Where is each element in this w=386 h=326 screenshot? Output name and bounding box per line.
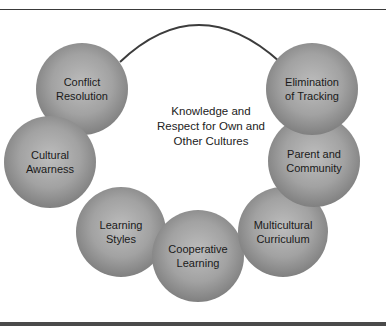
node-label-elimination-of-tracking: Eliminationof Tracking xyxy=(269,75,355,103)
node-label-line: Learning xyxy=(78,218,164,232)
node-label-line: Styles xyxy=(78,232,164,246)
bottom-bar xyxy=(0,322,386,326)
node-label-line: Elimination xyxy=(269,75,355,89)
node-label-learning-styles: LearningStyles xyxy=(78,218,164,246)
node-label-line: Curriculum xyxy=(240,232,326,246)
node-label-conflict-resolution: ConflictResolution xyxy=(39,75,125,103)
center-line: Respect for Own and xyxy=(146,119,276,134)
node-label-line: Multicultural xyxy=(240,218,326,232)
connecting-arc xyxy=(120,25,280,62)
node-label-line: Awarness xyxy=(7,162,93,176)
node-label-line: Resolution xyxy=(39,89,125,103)
node-label-line: Parent and xyxy=(271,147,357,161)
node-label-line: Cultural xyxy=(7,148,93,162)
node-label-line: Learning xyxy=(155,256,241,270)
center-line: Other Cultures xyxy=(146,134,276,149)
center-line: Knowledge and xyxy=(146,104,276,119)
node-label-line: Conflict xyxy=(39,75,125,89)
node-label-line: Community xyxy=(271,161,357,175)
node-label-cultural-awarness: CulturalAwarness xyxy=(7,148,93,176)
node-label-parent-and-community: Parent andCommunity xyxy=(271,147,357,175)
node-label-line: Cooperative xyxy=(155,242,241,256)
center-label: Knowledge and Respect for Own and Other … xyxy=(146,104,276,149)
node-label-cooperative-learning: CooperativeLearning xyxy=(155,242,241,270)
node-label-line: of Tracking xyxy=(269,89,355,103)
node-label-multicultural-curriculum: MulticulturalCurriculum xyxy=(240,218,326,246)
